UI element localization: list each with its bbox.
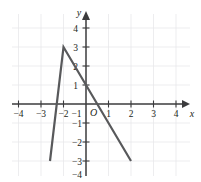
y-tick-label-1: 1: [73, 81, 78, 91]
x-tick-label-neg1: −1: [71, 109, 81, 119]
x-tick-label-4: 4: [174, 109, 179, 119]
x-axis: [12, 100, 190, 108]
y-tick-label-neg2: −2: [72, 138, 82, 148]
y-tick-label-neg3: −3: [72, 157, 82, 167]
y-tick-label-neg1: −1: [72, 119, 82, 129]
x-tick-label-neg2: −2: [58, 109, 68, 119]
x-tick-label-3: 3: [151, 109, 156, 119]
coordinate-plane-figure: −4 −3 −2 −1 1 2 3 4 4 3 2 1 −1 −2 −3 −4 …: [0, 0, 201, 182]
y-axis: [82, 11, 90, 176]
y-tick-label-4: 4: [73, 24, 78, 34]
graph-canvas: −4 −3 −2 −1 1 2 3 4 4 3 2 1 −1 −2 −3 −4 …: [0, 0, 201, 182]
x-tick-label-1: 1: [106, 109, 111, 119]
y-axis-arrow: [82, 11, 90, 20]
x-tick-label-neg4: −4: [13, 109, 23, 119]
y-axis-label: y: [76, 7, 82, 18]
x-tick-label-neg3: −3: [36, 109, 46, 119]
grid-lines: [12, 14, 190, 176]
x-axis-label: x: [189, 108, 195, 119]
x-axis-arrow: [182, 100, 190, 108]
y-tick-label-3: 3: [73, 43, 78, 53]
origin-label: O: [90, 107, 97, 118]
x-tick-label-2: 2: [129, 109, 134, 119]
y-tick-label-neg4: −4: [72, 170, 82, 180]
